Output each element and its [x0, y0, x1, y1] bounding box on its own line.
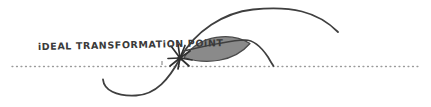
- diagram-canvas: [0, 0, 431, 107]
- hand-drawn-diagram: iDEAL TRANSFORMATiON POiNT: [0, 0, 431, 107]
